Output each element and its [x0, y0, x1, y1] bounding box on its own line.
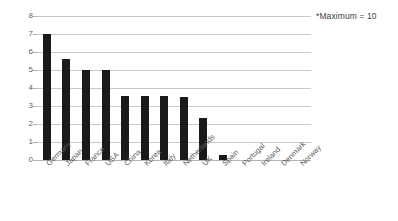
y-axis-tick-mark — [33, 88, 37, 89]
y-axis-tick-mark — [33, 70, 37, 71]
bar — [141, 96, 149, 160]
bar-chart: 012345678 GermanyJapanFranceUSAChinaKore… — [0, 0, 398, 221]
bar — [160, 96, 168, 160]
plot-area — [37, 16, 311, 160]
y-axis-tick-label: 4 — [11, 84, 33, 92]
bar — [43, 34, 51, 160]
y-axis-tick-mark — [33, 34, 37, 35]
gridline — [37, 34, 311, 35]
gridline — [37, 16, 311, 17]
y-axis-tick-mark — [33, 124, 37, 125]
y-axis-tick-label: 6 — [11, 48, 33, 56]
bar — [82, 70, 90, 160]
y-axis-tick-label: 2 — [11, 120, 33, 128]
gridline — [37, 52, 311, 53]
gridline — [37, 88, 311, 89]
gridline — [37, 106, 311, 107]
bar — [180, 97, 188, 160]
bar — [121, 96, 129, 160]
y-axis-tick-mark — [33, 16, 37, 17]
y-axis-tick-mark — [33, 106, 37, 107]
maximum-note-annotation: *Maximum = 10 — [316, 11, 377, 21]
y-axis-tick-label: 7 — [11, 30, 33, 38]
y-axis-tick-label: 5 — [11, 66, 33, 74]
y-axis-tick-mark — [33, 160, 37, 161]
gridline — [37, 142, 311, 143]
y-axis-tick-labels: 012345678 — [8, 16, 33, 160]
y-axis-tick-label: 8 — [11, 12, 33, 20]
y-axis-tick-label: 1 — [11, 138, 33, 146]
y-axis-tick-mark — [33, 52, 37, 53]
gridline — [37, 70, 311, 71]
y-axis-tick-mark — [33, 142, 37, 143]
gridline — [37, 124, 311, 125]
y-axis-tick-label: 0 — [11, 156, 33, 164]
x-axis-category-labels: GermanyJapanFranceUSAChinaKoreaItalyNeth… — [37, 162, 311, 221]
y-axis-tick-label: 3 — [11, 102, 33, 110]
